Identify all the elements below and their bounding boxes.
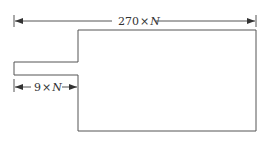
- diagram-canvas: 270×N 9×N: [0, 0, 268, 146]
- tab-length-label: 9×N: [34, 81, 62, 94]
- overall-width-label: 270×N: [118, 15, 160, 28]
